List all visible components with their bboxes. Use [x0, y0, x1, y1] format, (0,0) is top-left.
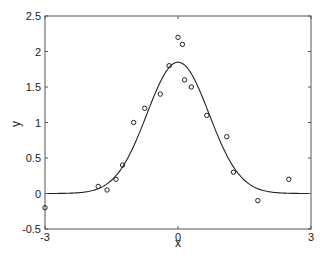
data-point-marker	[158, 92, 162, 96]
y-tick-label: 1	[35, 117, 41, 129]
y-tick-label: 1.5	[26, 81, 41, 93]
data-point-marker	[105, 188, 109, 192]
axis-ticks: -303-0.500.511.522.5	[22, 10, 314, 243]
data-markers	[43, 35, 291, 210]
data-point-marker	[256, 198, 260, 202]
data-point-marker	[143, 106, 147, 110]
data-point-marker	[176, 35, 180, 39]
y-tick-label: 2	[35, 46, 41, 58]
data-point-marker	[189, 85, 193, 89]
data-point-marker	[205, 113, 209, 117]
data-point-marker	[96, 184, 100, 188]
y-axis-label: y	[9, 121, 23, 127]
scatter-chart: -303-0.500.511.522.5 x y	[0, 0, 328, 260]
y-tick-label: -0.5	[22, 223, 41, 235]
x-axis-label: x	[175, 236, 181, 250]
data-point-marker	[287, 177, 291, 181]
data-point-marker	[114, 177, 118, 181]
data-point-marker	[225, 135, 229, 139]
x-tick-label: 3	[308, 231, 314, 243]
y-tick-label: 2.5	[26, 10, 41, 22]
fit-curve	[45, 62, 311, 193]
data-point-marker	[182, 78, 186, 82]
data-point-marker	[180, 42, 184, 46]
y-tick-label: 0.5	[26, 152, 41, 164]
gaussian-fit-line	[45, 62, 311, 193]
plot-frame	[45, 16, 311, 229]
data-point-marker	[231, 170, 235, 174]
x-tick-label: -3	[40, 231, 50, 243]
data-point-marker	[131, 120, 135, 124]
y-tick-label: 0	[35, 188, 41, 200]
plot-area-border	[45, 16, 311, 229]
